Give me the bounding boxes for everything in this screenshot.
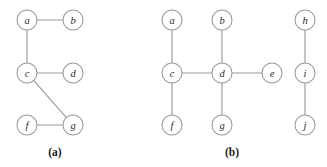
figure-container: abcdfg(a)abhcdeifgj(b) (0, 0, 327, 167)
node-label-d: d (219, 68, 225, 79)
graph-node-g[interactable]: g (63, 115, 83, 135)
node-label-a: a (24, 15, 29, 26)
graph-node-a[interactable]: a (162, 10, 182, 30)
node-label-d: d (70, 68, 76, 79)
graph-node-g[interactable]: g (212, 115, 232, 135)
node-label-h: h (302, 15, 307, 26)
graph-node-b[interactable]: b (212, 10, 232, 30)
node-label-c: c (170, 68, 175, 79)
graph-node-h[interactable]: h (295, 10, 315, 30)
graph-node-f[interactable]: f (162, 115, 182, 135)
edge-layer (172, 30, 305, 115)
node-label-a: a (169, 15, 174, 26)
panel-a-caption: (a) (48, 146, 62, 159)
graph-node-e[interactable]: e (262, 63, 282, 83)
graph-node-d[interactable]: d (63, 63, 83, 83)
graph-edge-c-g (34, 80, 67, 117)
graph-node-a[interactable]: a (17, 10, 37, 30)
graph-node-f[interactable]: f (17, 115, 37, 135)
graph-node-b[interactable]: b (63, 10, 83, 30)
graph-node-c[interactable]: c (162, 63, 182, 83)
panel-b: abhcdeifgj(b) (162, 10, 315, 159)
node-label-g: g (219, 120, 224, 131)
graph-figure: abcdfg(a)abhcdeifgj(b) (0, 0, 327, 167)
node-label-e: e (270, 68, 275, 79)
graph-node-j[interactable]: j (295, 115, 315, 135)
node-label-b: b (70, 15, 75, 26)
node-label-c: c (25, 68, 30, 79)
graph-node-i[interactable]: i (295, 63, 315, 83)
graph-node-c[interactable]: c (17, 63, 37, 83)
node-label-g: g (70, 120, 75, 131)
node-label-b: b (219, 15, 224, 26)
panel-b-caption: (b) (225, 146, 239, 159)
panel-a: abcdfg(a) (17, 10, 83, 159)
node-label-i: i (304, 68, 307, 79)
graph-node-d[interactable]: d (212, 63, 232, 83)
